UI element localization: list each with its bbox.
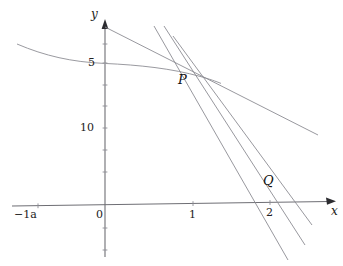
secant-line-1 — [154, 26, 288, 260]
graph-canvas — [0, 0, 343, 266]
y-axis — [102, 19, 109, 257]
tangent-line-at-p — [105, 27, 318, 135]
origin-label: 0 — [96, 209, 103, 220]
point-label-p: P — [178, 73, 187, 86]
secant-line-2 — [164, 26, 305, 245]
function-curve — [17, 44, 221, 83]
y-axis-label: y — [91, 8, 98, 20]
math-graph-figure: y x −1a 0 1 2 5 10 P Q — [0, 0, 343, 266]
x-axis — [12, 198, 336, 209]
x-axis-label: x — [331, 205, 338, 217]
x-tick-label-minus-one: −1a — [14, 209, 37, 220]
secant-line-3 — [173, 36, 312, 225]
point-label-q: Q — [263, 174, 274, 187]
y-tick-label-ten: 10 — [80, 122, 94, 133]
x-tick-label-one: 1 — [189, 209, 196, 220]
y-tick-label-five: 5 — [88, 57, 95, 68]
x-tick-label-two: 2 — [266, 207, 273, 218]
